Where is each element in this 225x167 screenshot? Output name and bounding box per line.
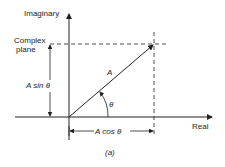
- figure-caption: (a): [105, 148, 115, 157]
- complex-plane-label-line2: plane: [16, 45, 36, 54]
- real-axis-label: Real: [192, 122, 208, 131]
- complex-plane-label-line1: Complex: [14, 36, 46, 45]
- a-cos-theta-label: A cos θ: [95, 127, 121, 136]
- imaginary-axis-label: Imaginary: [24, 9, 59, 18]
- complex-plane-diagram: Imaginary Complex plane A sin θ A θ A co…: [0, 0, 225, 167]
- theta-label: θ: [109, 100, 113, 109]
- angle-arc: [100, 92, 108, 117]
- vector-a-label: A: [107, 68, 112, 77]
- a-sin-theta-label: A sin θ: [26, 81, 50, 90]
